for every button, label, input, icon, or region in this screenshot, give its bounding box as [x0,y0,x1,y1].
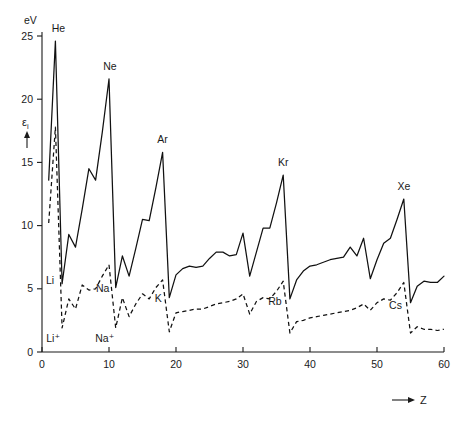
annotation-xe: Xe [397,180,410,192]
annotation-li: Li⁺ [46,332,60,344]
y-axis-tick-labels: 0510152025 [21,30,33,358]
x-tick-label: 10 [103,358,115,370]
annotation-na: Na [96,282,110,294]
y-tick-label: 0 [27,346,33,358]
x-axis-label: Z [420,394,427,406]
x-axis-arrow-icon [392,397,415,403]
annotation-rb: Rb [268,295,282,307]
series-neutral-atom-curve [49,41,444,303]
y-axis-symbol-label: εi [22,116,29,131]
chart-svg: 0510152025 0102030405060 HeNeArKrXeLiNaK… [0,0,463,424]
annotation-he: He [52,22,66,34]
annotation-k: K [155,292,162,304]
ionization-energy-chart: 0510152025 0102030405060 HeNeArKrXeLiNaK… [0,0,463,424]
annotation-na: Na⁺ [95,332,114,344]
x-tick-label: 0 [39,358,45,370]
annotation-ar: Ar [157,133,168,145]
y-tick-label: 15 [21,156,33,168]
y-axis-unit-label: eV [24,14,37,26]
y-tick-label: 20 [21,93,33,105]
y-tick-label: 5 [27,282,33,294]
x-tick-label: 20 [170,358,182,370]
x-tick-label: 50 [371,358,383,370]
series-singly-ionized-curve [49,127,444,333]
y-axis-subscript: i [27,122,29,131]
annotation-cs: Cs [389,299,402,311]
annotation-li: Li [46,274,54,286]
x-axis-tick-labels: 0102030405060 [39,358,450,370]
y-axis-arrow-icon [24,131,30,148]
element-annotations: HeNeArKrXeLiNaKRbCsLi⁺Na⁺ [46,22,410,344]
annotation-kr: Kr [278,156,289,168]
x-tick-label: 60 [438,358,450,370]
annotation-ne: Ne [103,60,117,72]
x-axis-ticks [42,347,444,352]
y-axis-ticks [37,36,42,352]
x-tick-label: 30 [237,358,249,370]
y-tick-label: 10 [21,219,33,231]
x-tick-label: 40 [304,358,316,370]
axes-group: 0510152025 0102030405060 [21,30,450,370]
y-tick-label: 25 [21,30,33,42]
